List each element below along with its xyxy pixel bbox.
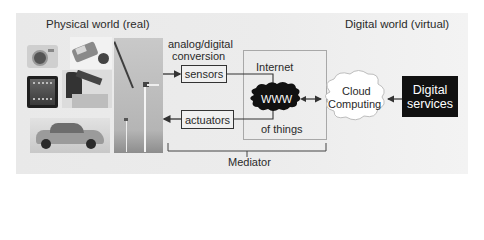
cloud-label-line2: Computing (328, 98, 381, 110)
mediator-label: Mediator (228, 156, 271, 168)
digital-services-line1: Digital (413, 83, 448, 97)
cloud-label-line1: Cloud (342, 85, 371, 97)
line-www-to-actuators (234, 109, 273, 119)
digital-services-line2: services (407, 97, 453, 111)
digital-services-box: Digital services (402, 76, 458, 117)
mediator-brace (168, 143, 326, 157)
www-label: WWW (261, 93, 292, 105)
